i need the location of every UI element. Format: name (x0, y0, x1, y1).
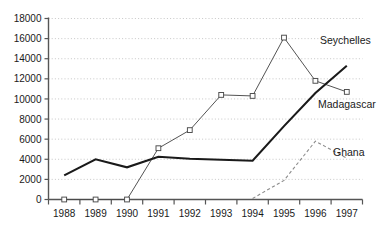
y-tick-label: 0 (36, 194, 42, 205)
series-marker-seychelles (313, 78, 318, 83)
y-tick-label: 4000 (19, 154, 42, 165)
series-marker-seychelles (156, 146, 161, 151)
y-axis (45, 18, 49, 200)
x-tick-labels: 1988198919901991199219931994199519961997 (53, 208, 358, 219)
y-tick-label: 2000 (19, 174, 42, 185)
y-tick-label: 18000 (14, 13, 42, 24)
series-line-seychelles (64, 38, 347, 200)
x-tick-label: 1989 (84, 208, 107, 219)
series-label-ghana: Ghana (333, 146, 365, 158)
series-annotations: SeychellesMadagascarGhana (318, 34, 376, 158)
series-marker-seychelles (187, 128, 192, 133)
x-tick-label: 1996 (304, 208, 327, 219)
chart-canvas: 0200040006000800010000120001400016000180… (0, 0, 388, 232)
series-marker-seychelles (344, 90, 349, 95)
x-tick-label: 1988 (53, 208, 76, 219)
series-marker-seychelles (250, 94, 255, 99)
series-marker-seychelles (282, 35, 287, 40)
series-marker-seychelles (219, 93, 224, 98)
x-tick-label: 1995 (273, 208, 296, 219)
x-tick-label: 1993 (210, 208, 233, 219)
y-tick-label: 6000 (19, 134, 42, 145)
x-tick-label: 1994 (241, 208, 264, 219)
y-tick-label: 10000 (14, 94, 42, 105)
series-lines (64, 38, 347, 200)
series-markers (62, 35, 349, 202)
series-marker-seychelles (93, 197, 98, 202)
grid-lines (49, 19, 363, 180)
series-marker-seychelles (125, 197, 130, 202)
y-tick-label: 16000 (14, 33, 42, 44)
y-tick-label: 14000 (14, 53, 42, 64)
y-tick-label: 8000 (19, 114, 42, 125)
x-tick-label: 1990 (116, 208, 139, 219)
x-tick-label: 1991 (147, 208, 170, 219)
x-tick-label: 1992 (179, 208, 202, 219)
series-marker-seychelles (62, 197, 67, 202)
series-label-seychelles: Seychelles (320, 34, 371, 46)
y-tick-label: 12000 (14, 73, 42, 84)
series-label-madagascar: Madagascar (318, 98, 376, 110)
x-tick-label: 1997 (336, 208, 359, 219)
line-chart: 0200040006000800010000120001400016000180… (0, 0, 388, 232)
y-tick-labels: 0200040006000800010000120001400016000180… (14, 13, 42, 205)
